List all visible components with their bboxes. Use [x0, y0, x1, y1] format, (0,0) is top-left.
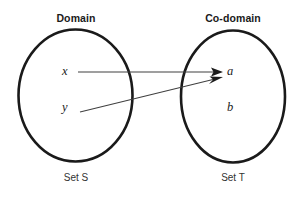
caption-set-t: Set T [180, 172, 286, 183]
element-y: y [62, 100, 68, 115]
caption-set-s: Set S [18, 172, 134, 183]
set-s-ellipse [19, 30, 133, 162]
diagram-canvas: Domain Co-domain x y a b Set S Set T [0, 0, 300, 200]
mapping-arrow-x-to-a [78, 68, 223, 77]
set-t-ellipse [181, 31, 285, 163]
element-b: b [227, 100, 233, 115]
mapping-diagram-svg [0, 0, 300, 200]
element-x: x [62, 64, 68, 79]
element-a: a [227, 64, 233, 79]
header-domain: Domain [18, 12, 134, 24]
mapping-arrow-y-to-a [80, 77, 223, 113]
header-codomain: Co-domain [180, 12, 286, 24]
